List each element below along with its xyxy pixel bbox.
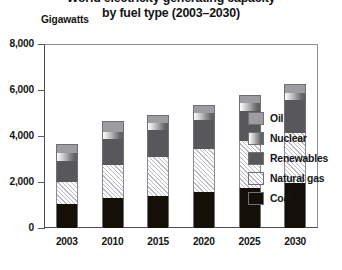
bar-segment-natural-gas [102,165,124,198]
y-axis-tick-label: 0 [0,222,34,233]
oil-swatch [248,112,264,125]
x-axis-tick-label: 2010 [92,236,134,247]
y-axis-tick [38,44,45,45]
legend-item-oil[interactable]: Oil [248,108,342,128]
bar-segment-oil [102,121,124,132]
bar-segment-nuclear [147,123,169,131]
legend-item-natural-gas[interactable]: Natural gas [248,168,342,188]
bar-segment-oil [147,115,169,122]
bar-segment-natural-gas [56,182,78,204]
legend-item-label: Oil [270,113,283,124]
y-axis-tick-label: 2,000 [0,176,34,187]
bar-segment-nuclear [102,132,124,140]
y-axis-tick [38,182,45,183]
legend-item-label: Coal [270,193,292,204]
legend-item-label: Renewables [270,153,328,164]
x-axis-tick-label: 2015 [137,236,179,247]
bar-segment-oil [56,144,78,153]
x-axis-tick-label: 2020 [183,236,225,247]
x-axis-tick-label: 2003 [46,236,88,247]
bar-segment-renewables [56,161,78,182]
bar-segment-coal [193,192,215,228]
chart-legend: OilNuclearRenewablesNatural gasCoal [248,108,342,208]
y-axis-tick [38,136,45,137]
bar-segment-renewables [193,120,215,149]
bar-segment-coal [102,198,124,228]
bar-segment-oil [239,95,261,104]
bar-segment-natural-gas [147,157,169,196]
nuclear-swatch [248,132,264,145]
legend-item-label: Nuclear [270,133,307,144]
bar-group-2010 [102,121,124,228]
bar-segment-renewables [147,130,169,156]
bar-segment-natural-gas [193,149,215,193]
bar-group-2003 [56,144,78,228]
natural-gas-swatch [248,172,264,185]
y-axis-tick [38,90,45,91]
coal-swatch [248,192,264,205]
legend-item-nuclear[interactable]: Nuclear [248,128,342,148]
y-axis-tick [38,228,45,229]
renewables-swatch [248,152,264,165]
y-axis-tick-label: 8,000 [0,38,34,49]
x-axis: 200320102015202020252030 [44,232,318,252]
legend-item-renewables[interactable]: Renewables [248,148,342,168]
bar-segment-coal [147,196,169,228]
bar-segment-oil [284,84,306,93]
bar-segment-nuclear [56,153,78,162]
bar-group-2020 [193,105,215,228]
bar-segment-nuclear [284,93,306,101]
x-axis-tick-label: 2030 [274,236,316,247]
y-axis-tick-label: 4,000 [0,130,34,141]
y-axis-tick-label: 6,000 [0,84,34,95]
bar-group-2015 [147,115,169,228]
legend-item-coal[interactable]: Coal [248,188,342,208]
bar-segment-renewables [102,139,124,164]
bar-segment-nuclear [193,113,215,120]
x-axis-tick-label: 2025 [229,236,271,247]
chart-figure: World electricity generating capacity by… [0,0,342,270]
y-axis-unit-label: Gigawatts [41,14,89,25]
bar-segment-coal [56,204,78,228]
bar-segment-oil [193,105,215,113]
legend-item-label: Natural gas [270,173,324,184]
